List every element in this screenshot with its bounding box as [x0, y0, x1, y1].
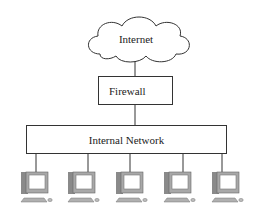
desktop-computer-icon — [20, 171, 54, 203]
internal-network-label: Internal Network — [89, 134, 164, 146]
desktop-computer-icon — [115, 171, 149, 203]
network-diagram: Internet Firewall Internal Network — [0, 0, 261, 215]
firewall-node: Firewall — [98, 76, 173, 105]
desktop-computer-icon — [211, 171, 245, 203]
internal-network-node: Internal Network — [26, 125, 227, 154]
firewall-label: Firewall — [109, 85, 146, 97]
internet-label: Internet — [100, 33, 172, 45]
desktop-computer-icon — [67, 171, 101, 203]
desktop-computer-icon — [163, 171, 197, 203]
